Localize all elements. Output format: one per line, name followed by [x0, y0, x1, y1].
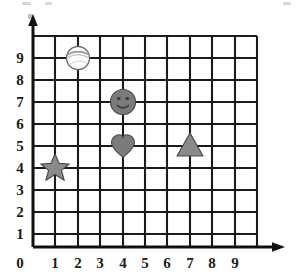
data-marker-ball — [67, 47, 90, 70]
y-tick-label-9: 9 — [12, 51, 28, 66]
y-tick-label-2: 2 — [12, 205, 28, 220]
data-marker-smiley-face — [111, 90, 136, 115]
y-tick-label-3: 3 — [12, 183, 28, 198]
data-marker-heart — [112, 135, 135, 158]
coordinate-plot — [0, 0, 296, 279]
origin-label-0: 0 — [12, 256, 28, 271]
x-tick-label-1: 1 — [47, 256, 63, 271]
figure-canvas: 9 8 7 6 5 4 3 2 1 0 1 2 3 4 5 6 7 8 9 — [0, 0, 296, 279]
x-axis — [33, 242, 285, 252]
x-tick-label-9: 9 — [227, 256, 243, 271]
x-tick-label-8: 8 — [204, 256, 220, 271]
data-marker-triangle — [177, 133, 203, 156]
up-arrow-icon — [28, 14, 38, 26]
y-tick-label-8: 8 — [12, 73, 28, 88]
y-tick-label-4: 4 — [12, 161, 28, 176]
x-tick-label-7: 7 — [182, 256, 198, 271]
x-tick-label-4: 4 — [115, 256, 131, 271]
x-tick-label-2: 2 — [70, 256, 86, 271]
y-tick-label-5: 5 — [12, 139, 28, 154]
y-tick-label-1: 1 — [12, 227, 28, 242]
x-tick-label-3: 3 — [92, 256, 108, 271]
y-tick-label-6: 6 — [12, 117, 28, 132]
right-arrow-icon — [272, 242, 285, 252]
x-tick-label-5: 5 — [137, 256, 153, 271]
grid-lines — [33, 36, 257, 247]
x-tick-label-6: 6 — [159, 256, 175, 271]
y-tick-label-7: 7 — [12, 95, 28, 110]
